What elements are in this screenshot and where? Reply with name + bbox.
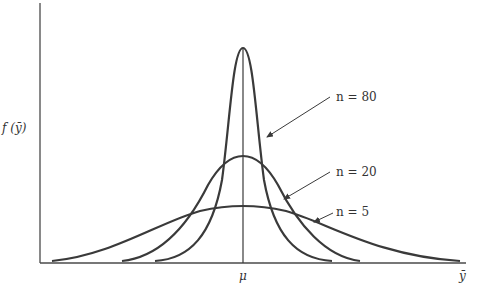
label-n5: n = 5 bbox=[336, 205, 369, 219]
arrow-n5 bbox=[314, 213, 333, 222]
label-n80: n = 80 bbox=[336, 90, 377, 104]
label-n20: n = 20 bbox=[336, 165, 377, 179]
arrow-n20 bbox=[284, 172, 330, 199]
mu-tick-label: μ bbox=[239, 269, 247, 283]
sampling-distribution-chart: f (ȳ) ȳ μ n = 80 n = 20 n = 5 bbox=[0, 0, 480, 291]
curve-n20 bbox=[122, 156, 360, 261]
x-axis-label: ȳ bbox=[458, 269, 466, 283]
arrow-n80 bbox=[267, 97, 330, 137]
curve-n5 bbox=[52, 206, 460, 261]
y-axis-label: f (ȳ) bbox=[1, 121, 27, 135]
